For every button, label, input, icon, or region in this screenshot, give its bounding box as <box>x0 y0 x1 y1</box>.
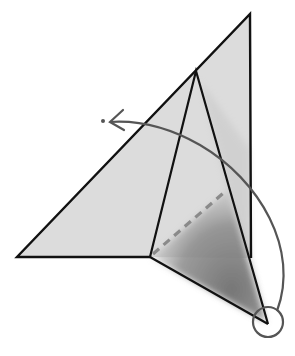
target-dot <box>101 119 105 123</box>
arrowhead-icon <box>110 110 124 130</box>
origami-diagram <box>0 0 295 356</box>
